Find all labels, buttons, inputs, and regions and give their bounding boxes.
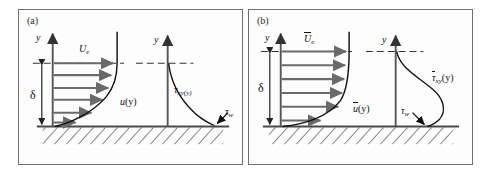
wall-hatching-a [43,127,223,144]
panel-b: (b) [248,9,473,165]
shear-stress-label-a: τxy(y) [174,84,192,97]
figure-root: (a) [0,0,491,175]
wall-hatching-b [269,127,453,144]
panel-a-graphics [19,10,242,164]
velocity-profile-label-a: u(y) [120,96,137,107]
stress-y-axis-label-b: y [382,34,386,45]
panel-a: (a) [18,9,243,165]
freestream-velocity-label-b: Ue [304,33,314,46]
wall-stress-pointer-b [413,113,425,125]
shear-stress-label-b: τxy(y) [432,72,453,85]
wall-shear-stress-label-b: τw [401,105,409,118]
boundary-layer-thickness-label-a: δ [30,88,36,103]
stress-y-axis-label-a: y [154,34,158,45]
wall-shear-stress-label-a: τw [225,106,233,119]
velocity-profile-label-b: u(y) [353,103,370,114]
velocity-y-axis-label-a: y [36,32,40,43]
panel-b-graphics [249,10,472,164]
freestream-velocity-label-a: Ue [79,43,89,56]
velocity-y-axis-label-b: y [265,32,269,43]
boundary-layer-thickness-label-b: δ [258,81,264,96]
